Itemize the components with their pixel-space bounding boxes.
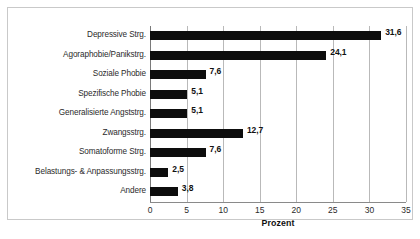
bar-value-label: 5,1 [191,86,203,96]
category-axis-labels: Depressive Strg.Agoraphobie/Panikstrg.So… [8,26,146,202]
bar-value-label: 24,1 [330,47,346,57]
x-tick-label: 0 [148,205,153,215]
bar [150,70,206,79]
bar-row: 5,1 [150,104,406,124]
bar-row: 24,1 [150,46,406,66]
bar-row: 12,7 [150,124,406,144]
category-label: Generalisierte Angststrg. [10,108,146,117]
bar [150,187,178,196]
category-label: Depressive Strg. [10,30,146,39]
category-label: Andere [10,186,146,195]
category-label: Belastungs- & Anpassungsstrg. [10,167,146,176]
bar [150,51,326,60]
bar-value-label: 7,6 [210,66,222,76]
x-tick-label: 35 [401,205,410,215]
x-tick-label: 20 [292,205,301,215]
bar [150,129,243,138]
x-axis-title: Prozent [150,218,406,228]
x-tick-label: 30 [365,205,374,215]
bar-row: 5,1 [150,85,406,105]
gridline-35 [406,26,407,202]
bar [150,168,168,177]
bar-row: 7,6 [150,65,406,85]
bar-row: 2,5 [150,163,406,183]
chart-figure: 31,624,17,65,15,112,77,62,53,8 Depressiv… [0,0,420,239]
bar-row: 31,6 [150,26,406,46]
bar [150,90,187,99]
bar [150,31,381,40]
x-tick-label: 25 [328,205,337,215]
category-label: Soziale Phobie [10,69,146,78]
bar-value-label: 3,8 [182,183,194,193]
category-label: Zwangsstrg. [10,128,146,137]
chart-frame: 31,624,17,65,15,112,77,62,53,8 Depressiv… [7,7,413,220]
bar [150,148,206,157]
bar [150,109,187,118]
bar-value-label: 12,7 [247,125,263,135]
plot-area: 31,624,17,65,15,112,77,62,53,8 [150,26,406,202]
category-label: Agoraphobie/Panikstrg. [10,50,146,59]
x-tick-label: 5 [184,205,189,215]
bar-value-label: 31,6 [385,27,401,37]
category-label: Somatoforme Strg. [10,147,146,156]
bar-row: 7,6 [150,143,406,163]
category-label: Spezifische Phobie [10,89,146,98]
bar-value-label: 5,1 [191,105,203,115]
bar-row: 3,8 [150,182,406,202]
x-axis-tick-labels: 05101520253035 [150,205,406,219]
bar-value-label: 7,6 [210,144,222,154]
x-tick-label: 10 [218,205,227,215]
x-axis-line [150,202,406,203]
bar-value-label: 2,5 [172,164,184,174]
x-tick-label: 15 [255,205,264,215]
